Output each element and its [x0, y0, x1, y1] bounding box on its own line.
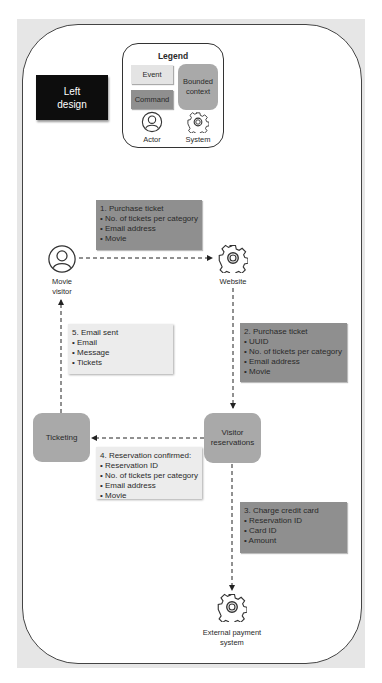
- message-1-item: • Email address: [100, 224, 198, 234]
- message-3-item: • Card ID: [244, 526, 343, 536]
- message-1-purchase-ticket: 1. Purchase ticket • No. of tickets per …: [96, 200, 202, 250]
- message-4-item: • Movie: [100, 491, 198, 501]
- message-3-item: • Amount: [244, 536, 343, 546]
- message-2-title: 2. Purchase ticket: [244, 327, 343, 337]
- message-4-item: • Email address: [100, 481, 198, 491]
- message-3-item: • Reservation ID: [244, 516, 343, 526]
- message-4-reservation-confirmed: 4. Reservation confirmed: • Reservation …: [96, 447, 202, 499]
- message-2-item: • No. of tickets per category: [244, 347, 343, 357]
- message-5-title: 5. Email sent: [72, 328, 169, 338]
- message-3-title: 3. Charge credit card: [244, 506, 343, 516]
- message-5-email-sent: 5. Email sent • Email • Message • Ticket…: [68, 324, 173, 374]
- message-2-item: • Movie: [244, 367, 343, 377]
- message-5-item: • Message: [72, 348, 169, 358]
- message-2-item: • Email address: [244, 357, 343, 367]
- movie-visitor-line2: visitor: [42, 287, 82, 297]
- message-1-item: • Movie: [100, 234, 198, 244]
- visitor-reservations-line1: Visitor: [211, 428, 255, 438]
- message-2-purchase-ticket: 2. Purchase ticket • UUID • No. of ticke…: [240, 323, 347, 382]
- ticketing-bounded-context: Ticketing: [33, 413, 90, 462]
- external-payment-line1: External payment: [192, 628, 272, 638]
- message-3-charge-credit-card: 3. Charge credit card • Reservation ID •…: [240, 502, 347, 553]
- message-5-item: • Email: [72, 338, 169, 348]
- website-label: Website: [208, 277, 258, 287]
- external-payment-line2: system: [192, 638, 272, 648]
- movie-visitor-line1: Movie: [42, 277, 82, 287]
- external-payment-label: External payment system: [192, 628, 272, 648]
- message-4-title: 4. Reservation confirmed:: [100, 451, 198, 461]
- movie-visitor-actor-icon: [47, 244, 77, 274]
- message-1-item: • No. of tickets per category: [100, 214, 198, 224]
- external-payment-gear-icon: [217, 592, 247, 622]
- website-gear-icon: [218, 243, 248, 273]
- message-1-title: 1. Purchase ticket: [100, 204, 198, 214]
- message-2-item: • UUID: [244, 337, 343, 347]
- message-5-item: • Tickets: [72, 358, 169, 368]
- message-4-item: • Reservation ID: [100, 461, 198, 471]
- message-4-item: • No. of tickets per category: [100, 471, 198, 481]
- visitor-reservations-line2: reservations: [211, 438, 255, 448]
- visitor-reservations-bounded-context: Visitorreservations: [204, 413, 261, 463]
- movie-visitor-label: Movie visitor: [42, 277, 82, 297]
